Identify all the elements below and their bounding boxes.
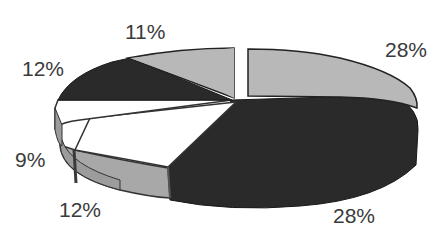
label-28-top-right: 28% — [385, 39, 427, 60]
label-9-left: 9% — [15, 149, 45, 170]
label-28-bottom-right: 28% — [333, 205, 375, 226]
label-12-top-left: 12% — [22, 58, 64, 79]
label-11-top: 11% — [125, 21, 165, 42]
label-12-bottom-left: 12% — [59, 199, 101, 220]
